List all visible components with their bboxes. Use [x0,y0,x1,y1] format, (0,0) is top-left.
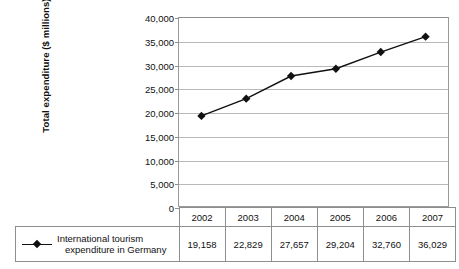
table-value-cell: 19,158 [179,227,225,262]
series-line [201,37,425,116]
y-axis-title: Total expenditure ($ millions) [40,0,51,166]
chart-figure: Total expenditure ($ millions) 05,00010,… [0,0,459,269]
y-tick-label: 5,000 [150,179,174,190]
y-tick-label: 10,000 [145,155,174,166]
y-tick-label: 40,000 [145,13,174,24]
series-line-group [179,18,448,206]
data-table: 200220032004200520062007 International t… [15,207,449,262]
y-tick-label: 35,000 [145,36,174,47]
legend-entry: International tourism expenditure in Ger… [16,227,180,262]
table-corner-spacer [16,208,180,227]
table-year-cell: 2002 [179,208,225,227]
table-value-cell: 27,657 [271,227,317,262]
table-value-cell: 29,204 [317,227,363,262]
table-year-cell: 2006 [363,208,409,227]
table-year-cell: 2003 [225,208,271,227]
table-value-cell: 22,829 [225,227,271,262]
legend-label: International tourism expenditure in Ger… [57,233,166,256]
y-tick-label: 30,000 [145,60,174,71]
data-point-marker [197,112,205,120]
table-row-years: 200220032004200520062007 [16,208,456,227]
data-point-marker [332,65,340,73]
data-point-marker [377,48,385,56]
y-tick-label: 25,000 [145,84,174,95]
data-table-grid: 200220032004200520062007 International t… [15,207,456,262]
table-row-values: International tourism expenditure in Ger… [16,227,456,262]
legend-label-line2: expenditure in Germany [57,244,166,256]
plot-area: 05,00010,00015,00020,00025,00030,00035,0… [178,17,449,207]
y-tick-label: 15,000 [145,131,174,142]
y-tick-label: 20,000 [145,108,174,119]
data-point-marker [242,95,250,103]
table-value-cell: 32,760 [363,227,409,262]
legend-marker-icon [22,239,52,250]
data-point-marker [287,72,295,80]
data-point-marker [421,33,429,41]
legend-label-line1: International tourism [57,233,166,245]
table-year-cell: 2005 [317,208,363,227]
table-value-cell: 36,029 [409,227,455,262]
table-year-cell: 2007 [409,208,455,227]
table-year-cell: 2004 [271,208,317,227]
